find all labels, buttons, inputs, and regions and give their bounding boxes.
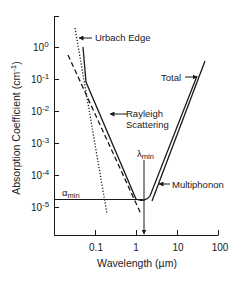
y-tick-label: 10-1 [31,72,50,85]
alpha-min-label: αmin [62,187,80,200]
x-tick-labels: 0.1 1 10 100 [89,242,229,253]
y-tick-labels: 100 10-1 10-2 10-3 10-4 10-5 [31,40,50,213]
absorption-chart: 100 10-1 10-2 10-3 10-4 10-5 0.1 1 10 10… [0,0,237,283]
x-tick-label: 100 [212,242,229,253]
lambda-min-label: λmin [137,148,154,161]
x-tick-label: 1 [133,242,139,253]
x-tick-label: 10 [172,242,184,253]
urbach-edge-label: Urbach Edge [95,32,150,43]
rayleigh-label-line1: Rayleigh [126,108,163,119]
rayleigh-label-line2: Scattering [126,119,169,130]
x-tick-label: 0.1 [89,242,103,253]
annotations: Urbach Edge Rayleigh Scattering Total Mu… [62,32,224,200]
plot-area [54,28,205,234]
y-tick-label: 10-4 [31,168,50,181]
multiphonon-label: Multiphonon [172,179,224,190]
total-label: Total [161,72,181,83]
x-axis-title: Wavelength (µm) [97,257,177,269]
y-tick-label: 10-2 [31,104,50,117]
y-tick-label: 10-3 [31,136,50,149]
y-tick-label: 10-5 [31,200,50,213]
x-ticks [96,230,219,235]
y-tick-label: 100 [33,40,49,53]
y-axis-title: Absorption Coefficient (cm-1) [9,61,22,195]
